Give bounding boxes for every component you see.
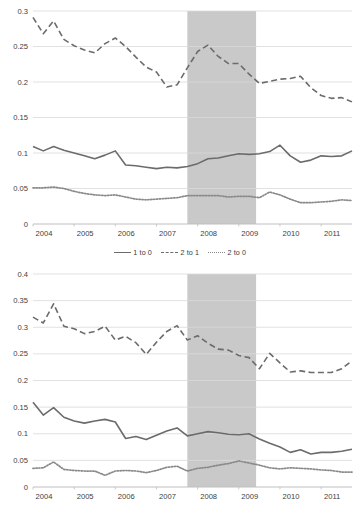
figure-container: 00.050.10.150.20.250.3200420052006200720… xyxy=(0,0,360,526)
x-axis-tick-label: 2010 xyxy=(283,229,300,238)
x-axis-tick-label: 2011 xyxy=(324,492,340,501)
x-axis-tick-label: 2007 xyxy=(159,492,176,501)
y-axis-tick-label: 0.35 xyxy=(13,296,28,305)
legend-item[interactable]: 1 to 0 xyxy=(114,249,152,256)
y-axis-tick-label: 0.25 xyxy=(13,349,28,358)
x-axis-tick-label: 2004 xyxy=(36,492,53,501)
legend-item-label: 1 to 0 xyxy=(133,249,152,256)
y-axis-tick-label: 0.2 xyxy=(17,78,28,87)
y-axis-tick-label: 0 xyxy=(24,483,28,492)
legend-key-line-icon xyxy=(114,252,131,253)
legend-key-line-icon xyxy=(161,252,178,253)
legend-top: 1 to 02 to 12 to 0 xyxy=(0,246,360,260)
x-axis-tick-label: 2009 xyxy=(241,492,258,501)
x-axis-tick-label: 2007 xyxy=(159,229,176,238)
legend-item[interactable]: 2 to 0 xyxy=(208,249,246,256)
y-axis-tick-label: 0.25 xyxy=(13,42,28,51)
line-chart-bottom: 00.050.10.150.20.250.30.350.420042005200… xyxy=(0,263,360,508)
legend-key-line-icon xyxy=(208,252,225,253)
x-axis-tick-label: 2008 xyxy=(200,229,217,238)
x-axis-tick-label: 2011 xyxy=(324,229,340,238)
chart-panel-top: 00.050.10.150.20.250.3200420052006200720… xyxy=(0,0,360,263)
line-chart-top: 00.050.10.150.20.250.3200420052006200720… xyxy=(0,0,360,245)
y-axis-tick-label: 0.4 xyxy=(17,270,28,279)
x-axis-tick-label: 2010 xyxy=(283,492,300,501)
x-axis-tick-label: 2005 xyxy=(77,492,94,501)
legend-item-label: 2 to 0 xyxy=(228,249,247,256)
x-axis-tick-label: 2008 xyxy=(200,492,217,501)
x-axis-tick-label: 2004 xyxy=(36,229,53,238)
x-axis-tick-label: 2006 xyxy=(118,229,135,238)
y-axis-tick-label: 0.05 xyxy=(13,184,28,193)
legend-item[interactable]: 2 to 1 xyxy=(161,249,199,256)
y-axis-tick-label: 0.15 xyxy=(13,403,28,412)
y-axis-tick-label: 0.3 xyxy=(17,323,28,332)
y-axis-tick-label: 0.15 xyxy=(13,113,28,122)
y-axis-tick-label: 0.05 xyxy=(13,456,28,465)
y-axis-tick-label: 0.1 xyxy=(17,429,28,438)
legend-item-label: 2 to 1 xyxy=(180,249,199,256)
x-axis-tick-label: 2006 xyxy=(118,492,135,501)
y-axis-tick-label: 0 xyxy=(24,220,28,229)
x-axis-tick-label: 2005 xyxy=(77,229,94,238)
y-axis-tick-label: 0.1 xyxy=(17,149,28,158)
x-axis-tick-label: 2009 xyxy=(241,229,258,238)
y-axis-tick-label: 0.3 xyxy=(17,7,28,16)
y-axis-tick-label: 0.2 xyxy=(17,376,28,385)
chart-panel-bottom: 00.050.10.150.20.250.30.350.420042005200… xyxy=(0,263,360,526)
